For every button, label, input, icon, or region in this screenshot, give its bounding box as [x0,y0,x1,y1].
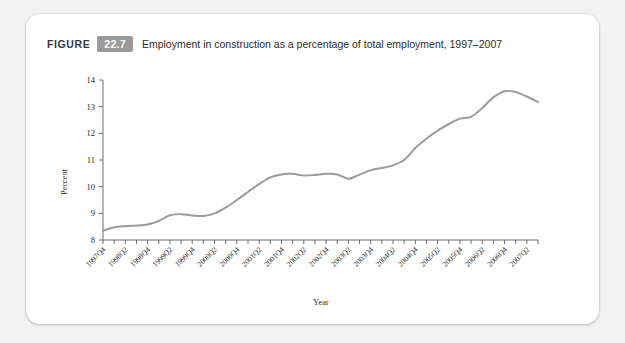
y-tick-label: 14 [87,75,96,85]
x-tick-label: 2002Q2 [285,245,309,269]
x-tick-label: 2000Q4 [218,245,242,269]
y-tick-label: 11 [87,155,95,165]
x-tick-label: 1998Q4 [128,245,152,269]
line-chart: 891011121314 1997Q41998Q21998Q41999Q2199… [26,14,599,324]
y-tick-label: 13 [87,102,96,112]
x-tick-label: 1999Q4 [173,245,197,269]
x-tick-label: 1998Q2 [106,245,130,269]
x-tick-label: 2006Q4 [485,245,509,269]
x-tick-label: 2003Q2 [329,245,353,269]
x-tick-label: 2001Q2 [240,245,264,269]
y-tick-label: 12 [87,128,96,138]
series-line [103,91,538,231]
x-tick-label: 2007Q2 [508,245,532,269]
x-tick-label: 2002Q4 [307,245,331,269]
x-tick-label: 2005Q2 [418,245,442,269]
x-tick-label: 2004Q4 [396,245,420,269]
y-tick-label: 10 [87,182,96,192]
x-tick-label: 2006Q2 [463,245,487,269]
y-tick-label: 8 [91,235,95,245]
x-axis: 1997Q41998Q21998Q41999Q21999Q42000Q22000… [84,240,538,269]
x-tick-label: 1997Q4 [84,245,108,269]
x-tick-label: 2000Q2 [195,245,219,269]
data-series [103,91,538,231]
x-tick-label: 1999Q2 [151,245,175,269]
y-axis-title: Percent [59,169,69,195]
figure-card: FIGURE 22.7 Employment in construction a… [26,14,599,324]
x-axis-title: Year [313,297,329,307]
y-tick-label: 9 [91,208,95,218]
y-axis: 891011121314 [87,75,104,245]
x-tick-label: 2004Q2 [374,245,398,269]
x-tick-label: 2005Q4 [441,245,465,269]
x-tick-label: 2003Q4 [351,245,375,269]
x-tick-label: 2001Q4 [262,245,286,269]
